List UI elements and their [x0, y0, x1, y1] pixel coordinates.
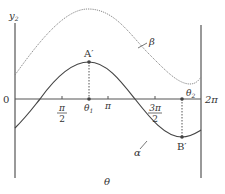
theta2-label: θ2	[186, 88, 195, 99]
theta-axis-label: θ	[104, 176, 110, 187]
point-theta2	[180, 97, 184, 101]
point-a-prime-label: A′	[83, 48, 94, 59]
tick-label-pi-over-2-num: π	[58, 103, 66, 113]
alpha-label: α	[134, 147, 141, 158]
tick-label-pi: π	[104, 101, 112, 111]
two-pi-label: 2π	[204, 94, 218, 105]
point-b-prime-label: B′	[177, 141, 187, 152]
diagram-canvas: y2 0 2π π 2 π 3π 2 θ1 θ2 A′ B′ β α θ	[0, 0, 225, 194]
tick-label-three-pi-over-2-den: 2	[152, 114, 158, 124]
y-axis-label: y2	[8, 10, 19, 22]
tick-label-three-pi-over-2-num: 3π	[149, 103, 162, 113]
origin-label: 0	[3, 94, 9, 105]
tick-label-pi-over-2-den: 2	[59, 114, 65, 124]
point-theta1	[87, 97, 91, 101]
beta-curve	[15, 9, 201, 84]
beta-label: β	[148, 36, 155, 47]
alpha-leader-line	[140, 141, 147, 149]
point-a-prime	[87, 60, 91, 64]
point-b-prime	[180, 135, 184, 139]
theta1-label: θ1	[84, 103, 93, 114]
